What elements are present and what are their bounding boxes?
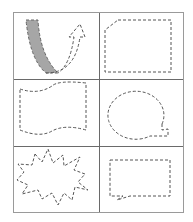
round-callout-icon — [108, 91, 168, 139]
rect-callout-icon — [110, 160, 170, 200]
snipped-rectangle-icon — [105, 20, 171, 72]
explosion-icon — [17, 149, 88, 205]
curved-arrow-icon — [26, 20, 85, 73]
shapes-canvas — [0, 0, 193, 222]
wave-banner-icon — [20, 82, 86, 134]
